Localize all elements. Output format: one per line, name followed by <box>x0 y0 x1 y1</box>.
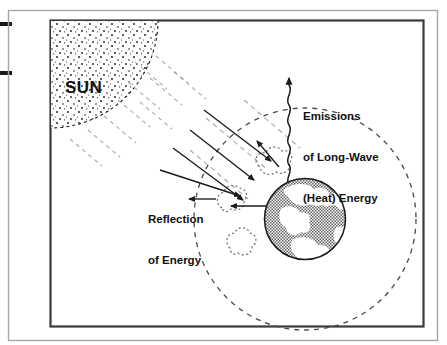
reflection-label-line1: Reflection <box>148 213 204 227</box>
figure-canvas: SUN Emissions of Long-Wave (Heat) Energy… <box>0 0 447 345</box>
emissions-label-line2: of Long-Wave <box>303 151 379 165</box>
emissions-label: Emissions of Long-Wave (Heat) Energy <box>303 83 379 232</box>
emissions-label-line1: Emissions <box>303 110 379 124</box>
reflection-label-line2: of Energy <box>148 254 204 268</box>
emissions-label-line3: (Heat) Energy <box>303 192 379 206</box>
reflection-label: Reflection of Energy <box>148 186 204 295</box>
greenhouse-effect-diagram <box>0 0 447 345</box>
crop-mark-lower <box>0 71 12 75</box>
crop-mark-upper <box>0 22 12 26</box>
sun-label: SUN <box>44 58 102 118</box>
